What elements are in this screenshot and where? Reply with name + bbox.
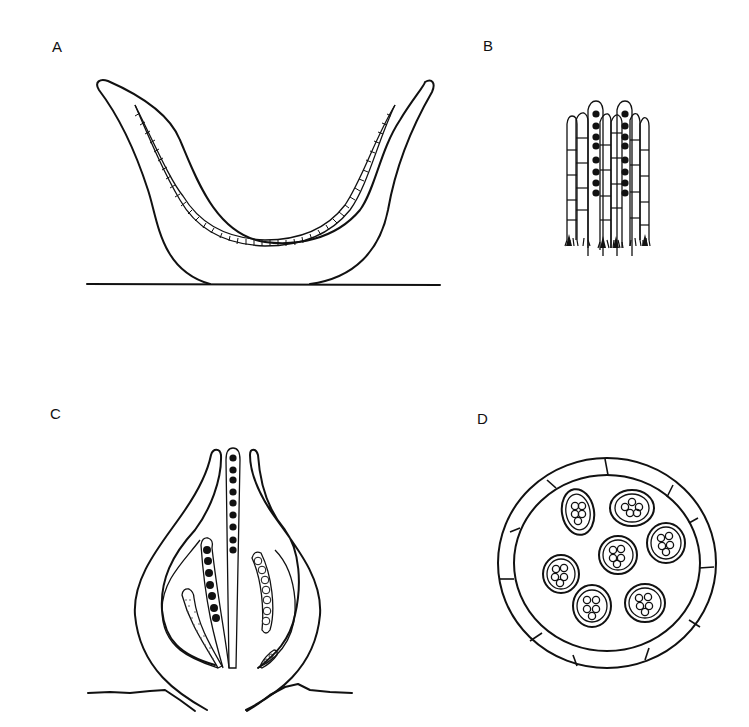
stippling [185, 599, 214, 660]
ascus-d-3 [647, 523, 685, 563]
paraphyses [567, 113, 649, 250]
ascus-d-2 [610, 490, 654, 526]
ascospores-left-dark [203, 546, 220, 622]
cleistothecium-outer-wall [498, 458, 716, 668]
substrate-line-c-right [247, 684, 352, 711]
ascus-left-stippled [182, 589, 222, 668]
ascus-d-4 [599, 536, 637, 574]
apothecium-drawing [87, 80, 440, 285]
diagram-canvas [0, 0, 749, 727]
ascus-d-6 [573, 585, 611, 627]
ascus-d-7 [625, 584, 665, 622]
perithecium-outer-wall [135, 450, 221, 710]
paraphysis-septa [567, 133, 649, 225]
hymenium-detail-drawing [565, 101, 650, 256]
ascus-d-1 [558, 487, 598, 538]
substrate-line-a [87, 284, 440, 285]
paraphysis-bases [565, 238, 650, 248]
hymenium-inner-edge [135, 105, 395, 240]
cleistothecium-drawing [498, 458, 716, 668]
perithecium-outer-wall-right [246, 450, 320, 710]
wall-cell-divisions [499, 459, 714, 666]
hymenium-cells [135, 113, 391, 246]
ascus-left-dark [201, 538, 229, 668]
ascus-d-5 [543, 555, 579, 593]
ascospores-central [229, 454, 236, 553]
apothecium-outer-wall [97, 80, 433, 284]
asci-in-cleistothecium [543, 487, 685, 627]
hymenium-outer-edge [135, 105, 395, 246]
perithecium-drawing [88, 448, 352, 711]
